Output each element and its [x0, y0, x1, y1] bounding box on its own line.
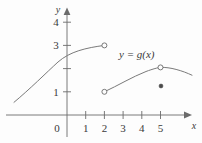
x-axis-label: x — [191, 120, 197, 131]
y-tick-label-1: 1 — [53, 86, 59, 98]
x-tick-label-1: 1 — [83, 122, 89, 134]
curve-label: y = g(x) — [118, 48, 155, 61]
y-tick-label-3: 3 — [53, 39, 59, 51]
origin-label: 0 — [54, 122, 60, 134]
x-tick-label-3: 3 — [120, 122, 126, 134]
open-point-5-2 — [158, 65, 163, 70]
x-axis-arrow-icon — [184, 112, 192, 119]
x-tick-label-2: 2 — [102, 122, 108, 134]
x-tick-label-4: 4 — [139, 122, 145, 134]
open-point-2-3 — [102, 43, 107, 48]
y-axis-label: y — [55, 4, 61, 15]
curve-right-branch — [104, 67, 192, 91]
curve-left-branch — [14, 45, 104, 102]
open-point-2-1 — [102, 89, 107, 94]
x-tick-labels: 1 2 3 4 5 — [83, 122, 164, 134]
filled-point-5 — [159, 84, 163, 88]
y-axis-arrow-icon — [64, 8, 71, 16]
axes-group — [6, 8, 192, 138]
y-tick-label-4: 4 — [53, 16, 59, 28]
y-tick-labels: 1 3 4 — [53, 16, 59, 98]
coordinate-plane-svg: 1 2 3 4 5 1 3 4 0 y x — [0, 0, 202, 143]
graph-figure: 1 2 3 4 5 1 3 4 0 y x — [0, 0, 202, 143]
x-tick-label-5: 5 — [158, 122, 164, 134]
